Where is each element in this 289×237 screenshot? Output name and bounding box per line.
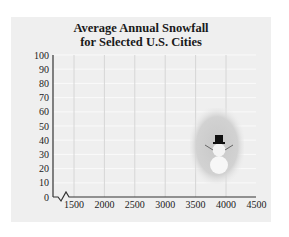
- x-tick-label: 2500: [125, 199, 145, 210]
- chart-plot-area: 0102030405060708090100 15002000250030003…: [0, 0, 289, 237]
- x-tick-label: 4000: [216, 199, 236, 210]
- x-tick-label: 3500: [186, 199, 206, 210]
- y-tick-label: 10: [39, 177, 49, 188]
- y-tick-labels: 0102030405060708090100: [34, 50, 49, 203]
- x-tick-labels: 1500200025003000350040004500: [64, 199, 266, 210]
- y-tick-label: 60: [39, 106, 49, 117]
- x-tick-label: 2000: [94, 199, 114, 210]
- y-tick-label: 80: [39, 78, 49, 89]
- snowman-illustration: [190, 108, 244, 184]
- y-tick-label: 50: [39, 121, 49, 132]
- x-tick-label: 4500: [246, 199, 266, 210]
- x-tick-label: 3000: [155, 199, 175, 210]
- y-tick-label: 40: [39, 135, 49, 146]
- y-tick-label: 100: [34, 50, 49, 61]
- y-tick-label: 70: [39, 92, 49, 103]
- y-tick-label: 0: [44, 192, 49, 203]
- y-tick-label: 30: [39, 149, 49, 160]
- x-tick-label: 1500: [64, 199, 84, 210]
- y-tick-label: 90: [39, 64, 49, 75]
- hat-icon: [215, 135, 223, 143]
- y-tick-label: 20: [39, 163, 49, 174]
